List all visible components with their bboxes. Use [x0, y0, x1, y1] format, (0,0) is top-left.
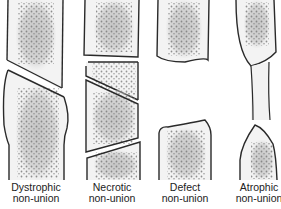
label-necrotic: Necrotic non-union	[80, 182, 144, 204]
label-dystrophic: Dystrophic non-union	[4, 182, 68, 204]
label-dystrophic-line2: non-union	[4, 193, 68, 204]
label-defect-line2: non-union	[154, 193, 216, 204]
panel-necrotic	[84, 0, 140, 180]
label-atrophic: Atrophic non-union	[228, 182, 281, 204]
panel-dystrophic	[4, 0, 69, 180]
label-atrophic-line2: non-union	[228, 193, 281, 204]
panel-defect	[157, 0, 211, 180]
label-necrotic-line2: non-union	[80, 193, 144, 204]
label-defect: Defect non-union	[154, 182, 216, 204]
non-union-diagram	[0, 0, 281, 209]
panel-atrophic	[236, 0, 277, 180]
